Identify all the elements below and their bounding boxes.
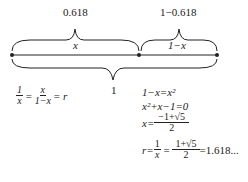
line4-frac2-den: 2 bbox=[184, 150, 189, 160]
line3-lhs: x= bbox=[142, 117, 154, 129]
division-point bbox=[137, 53, 141, 57]
ratio-lhs-den: x bbox=[17, 96, 21, 106]
line3-den: 2 bbox=[169, 123, 174, 133]
ratio-rhs: = r bbox=[53, 90, 67, 102]
derivation-line1: 1−x=x² bbox=[142, 86, 175, 98]
line4-frac1-den: x bbox=[155, 150, 159, 160]
label-1-minus-x: 1−x bbox=[168, 39, 186, 51]
ratio-equation: 1x = x1−x = r bbox=[16, 85, 67, 106]
label-x: x bbox=[73, 39, 78, 51]
label-one: 1 bbox=[111, 84, 117, 96]
derivation-line4: r= 1x = 1+√52 =1.618... bbox=[142, 139, 239, 160]
derivation-line3: x= −1+√52 bbox=[142, 112, 189, 133]
label-0618: 0.618 bbox=[63, 6, 88, 18]
label-1-minus-0618: 1−0.618 bbox=[160, 6, 196, 18]
line4-result: =1.618... bbox=[200, 144, 239, 156]
brace-one bbox=[12, 59, 217, 80]
line4-lhs: r= bbox=[142, 144, 154, 156]
ratio-mid-den: 1−x bbox=[35, 96, 51, 106]
endpoint-left bbox=[10, 53, 14, 57]
endpoint-right bbox=[215, 53, 219, 57]
